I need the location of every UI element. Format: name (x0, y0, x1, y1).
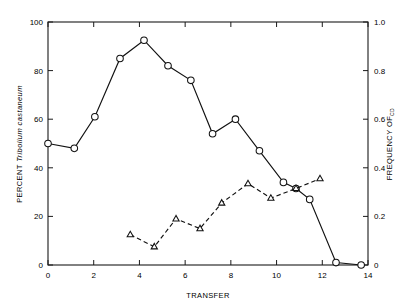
x-tick-label: 0 (46, 271, 51, 280)
y-tick-label: 0 (39, 261, 44, 270)
data-point-circle (209, 130, 216, 137)
data-point-circle (306, 196, 313, 203)
y-tick-label: 80 (34, 67, 43, 76)
data-point-circle (165, 62, 172, 69)
y-tick-label: 20 (34, 212, 43, 221)
line-chart: 02468101214 020406080100 00.20.40.60.81.… (0, 0, 405, 308)
y2-tick-label: 0.6 (374, 115, 386, 124)
y2-tick-label: 0 (374, 261, 379, 270)
data-point-circle (358, 262, 365, 269)
data-point-circle (333, 259, 340, 266)
x-tick-label: 12 (318, 271, 327, 280)
data-point-circle (280, 179, 287, 186)
y2-tick-label: 0.8 (374, 67, 386, 76)
x-tick-label: 14 (364, 271, 373, 280)
data-point-circle (188, 77, 195, 84)
y2-tick-label: 0.2 (374, 212, 386, 221)
data-point-circle (71, 145, 78, 152)
y-axis-right-title-main: FREQUENCY OF (385, 116, 394, 180)
y-axis-right-title: FREQUENCY OFCD (385, 108, 395, 180)
y2-tick-label: 0.4 (374, 164, 386, 173)
y2-tick-label: 1.0 (374, 18, 386, 27)
chart-background (0, 0, 405, 308)
x-tick-label: 2 (91, 271, 96, 280)
y-axis-right-title-subscript: CD (389, 108, 395, 116)
data-point-circle (141, 37, 148, 44)
x-tick-label: 6 (183, 271, 188, 280)
chart-figure: 02468101214 020406080100 00.20.40.60.81.… (0, 0, 405, 308)
x-tick-label: 10 (272, 271, 281, 280)
data-point-circle (256, 147, 263, 154)
data-point-circle (117, 55, 124, 62)
x-tick-label: 4 (137, 271, 142, 280)
x-axis-title: TRANSFER (186, 291, 230, 300)
data-point-circle (92, 113, 99, 120)
y-tick-label: 100 (30, 18, 44, 27)
x-tick-label: 8 (229, 271, 234, 280)
y-tick-label: 60 (34, 115, 43, 124)
data-point-circle (232, 116, 239, 123)
data-point-circle (45, 140, 52, 147)
y-axis-left-title-prefix: PERCENT (15, 162, 24, 203)
y-tick-label: 40 (34, 164, 43, 173)
y-axis-left-title: PERCENT Tribolium castaneum (15, 85, 24, 203)
y-axis-left-title-species: Tribolium castaneum (15, 85, 24, 162)
